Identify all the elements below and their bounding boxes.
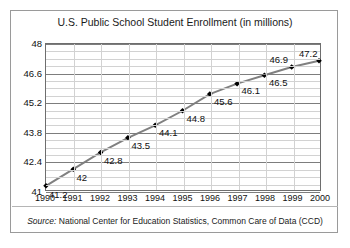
data-point-label: 46.9	[270, 54, 289, 65]
y-axis-tick-label: 42.4	[24, 156, 43, 167]
data-point-label: 44.1	[159, 127, 178, 138]
data-point-marker	[289, 64, 295, 70]
data-point-marker	[262, 73, 268, 79]
data-point-label: 46.5	[269, 77, 288, 88]
data-point-marker	[234, 81, 240, 87]
plot-area: 41.24242.843.544.144.845.646.146.546.947…	[45, 43, 321, 191]
x-axis-tick-label: 1997	[227, 193, 247, 203]
x-axis-tick-label: 2000	[310, 193, 330, 203]
caption-source-text: National Center for Education Statistics…	[59, 216, 323, 226]
x-axis-tick-label: 1990	[35, 193, 55, 203]
x-axis-tick-label: 1993	[117, 193, 137, 203]
x-axis-tick-label: 1991	[62, 193, 82, 203]
x-axis-tick-label: 1999	[282, 193, 302, 203]
y-axis-tick-label: 48	[31, 38, 42, 49]
data-point-label: 46.1	[242, 85, 261, 96]
x-axis-tick-label: 1996	[200, 193, 220, 203]
caption-divider	[12, 206, 338, 207]
chart-card: U.S. Public School Student Enrollment (i…	[10, 10, 338, 233]
data-point-label: 44.8	[187, 113, 206, 124]
x-axis-tick-label: 1994	[145, 193, 165, 203]
x-axis-labels: 1990199119921993199419951996199719981999…	[45, 193, 321, 207]
x-axis-tick-label: 1995	[172, 193, 192, 203]
data-point-label: 42	[77, 172, 88, 183]
data-point-label: 43.5	[132, 140, 151, 151]
data-point-label: 42.8	[104, 155, 123, 166]
chart-source-caption: Source: National Center for Education St…	[11, 216, 339, 226]
caption-source-label: Source:	[27, 216, 56, 226]
x-axis-tick-label: 1992	[90, 193, 110, 203]
y-axis-labels: 4142.443.845.246.648	[11, 43, 42, 191]
data-point-label: 47.2	[299, 48, 318, 59]
x-axis-tick-label: 1998	[255, 193, 275, 203]
y-axis-tick-label: 43.8	[24, 126, 43, 137]
y-axis-tick-label: 45.2	[24, 97, 43, 108]
y-axis-tick-label: 46.6	[24, 67, 43, 78]
chart-title: U.S. Public School Student Enrollment (i…	[11, 16, 339, 28]
data-point-label: 45.6	[214, 96, 233, 107]
series-line-svg	[46, 44, 320, 190]
